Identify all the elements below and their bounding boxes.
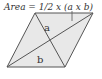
label-b: b [37,54,43,65]
rhombus-diagram: Area = 1/2 x (a x b) a b [0,0,102,79]
label-a: a [44,22,50,33]
area-formula: Area = 1/2 x (a x b) [3,2,93,12]
